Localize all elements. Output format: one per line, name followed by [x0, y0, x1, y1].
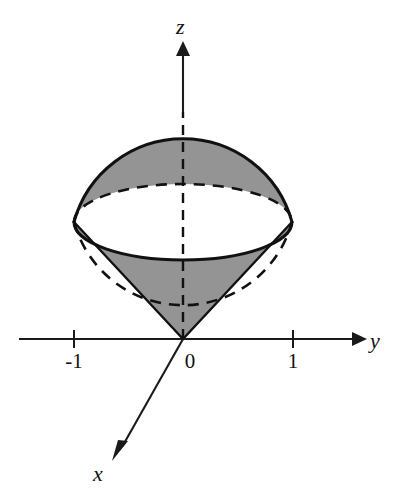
figure-root: y z x -1 0 1: [0, 0, 396, 497]
x-axis-label: x: [92, 461, 103, 486]
tick-label-origin: 0: [185, 349, 196, 373]
tick-label-positive-one: 1: [288, 349, 299, 373]
math-diagram-svg: y z x -1 0 1: [0, 0, 396, 497]
z-axis-label: z: [175, 14, 185, 39]
figure-background: [0, 0, 396, 497]
y-axis-label: y: [368, 328, 380, 353]
tick-label-negative-one: -1: [65, 349, 83, 373]
